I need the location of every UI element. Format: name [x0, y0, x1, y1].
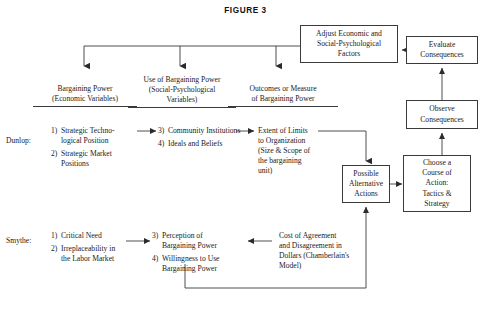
smythe-economic-items: 1) Critical Need 2) Irreplaceability in …: [51, 231, 133, 266]
box-observe-consequences[interactable]: Observe Consequences: [406, 100, 478, 129]
figure-canvas: FIGURE 3: [0, 0, 491, 310]
smythe-outcome-text: Cost of Agreement and Disagreement in Do…: [279, 231, 363, 271]
column-header-line1: Use of Bargaining Power: [128, 75, 236, 85]
dunlop-social-items: 3) Community Institutions 4) Ideals and …: [158, 126, 258, 151]
figure-title: FIGURE 3: [0, 6, 491, 15]
item-text: Community Institutions: [168, 126, 258, 136]
list-item: 2) Strategic Market Positions: [51, 149, 143, 169]
item-number: 3): [152, 231, 162, 241]
column-header-line2: (Social-Psychological: [128, 85, 236, 95]
item-number: 1): [51, 126, 61, 136]
column-header-outcomes: Outcomes or Measure of Bargaining Power: [228, 84, 338, 107]
item-number: 3): [158, 126, 168, 136]
item-text: Willingness to Use Bargaining Power: [162, 254, 248, 274]
item-text: Perception of Bargaining Power: [162, 231, 248, 251]
list-item: 3) Community Institutions: [158, 126, 258, 136]
column-header-use-of-bargaining-power: Use of Bargaining Power (Social-Psycholo…: [128, 75, 236, 108]
box-possible-alternative-actions[interactable]: Possible Alternative Actions: [342, 165, 390, 203]
item-text: Irreplaceability in the Labor Market: [61, 244, 133, 264]
column-header-rule: [228, 106, 338, 107]
column-header-line1: Bargaining Power: [33, 84, 137, 94]
column-header-line2: (Economic Variables): [33, 94, 137, 104]
row-label-dunlop: Dunlop:: [6, 136, 31, 145]
item-text: Strategic Market Positions: [61, 149, 143, 169]
list-item: 2) Irreplaceability in the Labor Market: [51, 244, 133, 264]
item-text: Ideals and Beliefs: [168, 139, 258, 149]
item-number: 1): [51, 231, 61, 241]
column-header-bargaining-power: Bargaining Power (Economic Variables): [33, 84, 137, 107]
column-header-line3: Variables): [128, 95, 236, 105]
item-number: 4): [152, 254, 162, 264]
list-item: 4) Ideals and Beliefs: [158, 139, 258, 149]
box-adjust-factors[interactable]: Adjust Economic and Social-Psychological…: [300, 25, 398, 63]
item-number: 2): [51, 244, 61, 254]
row-label-smythe: Smythe:: [6, 236, 31, 245]
column-header-line2: of Bargaining Power: [228, 94, 338, 104]
box-choose-course-of-action[interactable]: Choose a Course of Action: Tactics & Str…: [403, 155, 471, 212]
dunlop-outcome-text: Extent of Limits to Organization (Size &…: [258, 126, 330, 176]
list-item: 1) Critical Need: [51, 231, 133, 241]
column-header-line1: Outcomes or Measure: [228, 84, 338, 94]
list-item: 3) Perception of Bargaining Power: [152, 231, 248, 251]
smythe-social-items: 3) Perception of Bargaining Power 4) Wil…: [152, 231, 248, 276]
item-number: 2): [51, 149, 61, 159]
box-evaluate-consequences[interactable]: Evaluate Consequences: [406, 36, 478, 64]
list-item: 1) Strategic Techno- logical Position: [51, 126, 143, 146]
item-text: Critical Need: [61, 231, 133, 241]
dunlop-economic-items: 1) Strategic Techno- logical Position 2)…: [51, 126, 143, 171]
column-header-rule: [33, 106, 137, 107]
column-header-rule: [128, 107, 236, 108]
item-text: Strategic Techno- logical Position: [61, 126, 143, 146]
list-item: 4) Willingness to Use Bargaining Power: [152, 254, 248, 274]
item-number: 4): [158, 139, 168, 149]
